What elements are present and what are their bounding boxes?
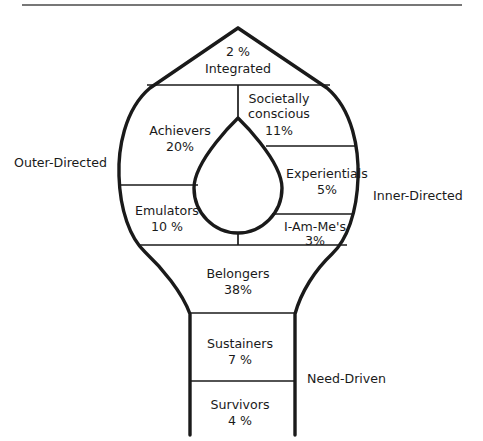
label-i-am-mes-pct: 3% — [305, 233, 325, 248]
label-inner-directed: Inner-Directed — [373, 188, 463, 203]
label-belongers-pct: 38% — [224, 282, 252, 297]
label-i-am-mes-name: I-Am-Me's — [284, 219, 346, 234]
label-outer-directed: Outer-Directed — [14, 155, 107, 170]
label-integrated-pct: 2 % — [226, 44, 250, 59]
label-sustainers-name: Sustainers — [207, 336, 273, 351]
label-societally-conscious-pct: 11% — [265, 123, 293, 138]
label-belongers-name: Belongers — [206, 266, 269, 281]
label-emulators-name: Emulators — [135, 203, 199, 218]
label-societally-conscious-line2: conscious — [248, 106, 310, 121]
label-integrated-name: Integrated — [205, 61, 271, 76]
label-experientials-pct: 5% — [317, 182, 337, 197]
label-achievers-name: Achievers — [149, 123, 211, 138]
vals-diagram: 2 % Integrated Societally conscious 11% … — [0, 0, 483, 441]
label-sustainers-pct: 7 % — [228, 352, 252, 367]
label-survivors-name: Survivors — [210, 397, 269, 412]
label-experientials-name: Experientials — [286, 166, 368, 181]
label-achievers-pct: 20% — [166, 139, 194, 154]
label-societally-conscious-line1: Societally — [249, 91, 311, 106]
label-survivors-pct: 4 % — [228, 413, 252, 428]
label-need-driven: Need-Driven — [307, 371, 386, 386]
vals-diagram-svg: 2 % Integrated Societally conscious 11% … — [0, 0, 483, 441]
label-emulators-pct: 10 % — [151, 219, 183, 234]
